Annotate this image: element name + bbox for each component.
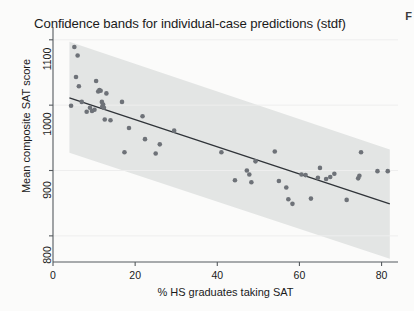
scatter-point <box>72 45 77 50</box>
scatter-point <box>157 142 162 147</box>
scatter-point <box>253 159 258 164</box>
x-tick-label: 0 <box>38 269 68 281</box>
y-tick-label: 1000 <box>41 104 53 144</box>
scatter-point <box>247 172 252 177</box>
scatter-point <box>69 104 74 109</box>
scatter-point <box>328 175 333 180</box>
scatter-point <box>344 198 349 203</box>
scatter-point <box>79 100 84 105</box>
scatter-point <box>249 180 254 185</box>
scatter-point <box>316 175 321 180</box>
scatter-point <box>153 151 158 156</box>
y-tick-label: 1100 <box>41 39 53 79</box>
scatter-point <box>143 137 148 142</box>
scatter-point <box>172 128 177 133</box>
scatter-point <box>74 75 79 80</box>
x-tick-label: 80 <box>367 269 397 281</box>
chart-canvas <box>0 0 414 311</box>
x-tick-label: 60 <box>284 269 314 281</box>
scatter-point <box>233 178 238 183</box>
scatter-point <box>303 173 308 178</box>
scatter-point <box>277 179 282 184</box>
y-tick-label: 900 <box>41 170 53 210</box>
scatter-point <box>357 173 362 178</box>
scatter-point <box>94 79 99 84</box>
scatter-point <box>290 202 295 207</box>
x-tick-label: 20 <box>120 269 150 281</box>
x-axis-title: % HS graduates taking SAT <box>53 286 398 298</box>
scatter-point <box>140 114 145 119</box>
scatter-point <box>84 109 89 114</box>
scatter-point <box>375 169 380 174</box>
figure-container: Confidence bands for individual-case pre… <box>0 0 414 311</box>
y-axis-title: Mean composite SAT score <box>20 26 32 226</box>
scatter-point <box>120 100 125 105</box>
scatter-point <box>104 91 109 96</box>
scatter-point <box>359 150 364 155</box>
scatter-point <box>299 172 304 177</box>
scatter-point <box>309 196 314 201</box>
scatter-point <box>272 149 277 154</box>
scatter-point <box>98 88 103 93</box>
scatter-point <box>77 84 82 89</box>
scatter-point <box>102 117 107 122</box>
scatter-point <box>318 166 323 171</box>
scatter-point <box>127 126 132 131</box>
scatter-point <box>75 53 80 58</box>
scatter-point <box>245 168 250 173</box>
scatter-point <box>219 150 224 155</box>
scatter-point <box>385 169 390 174</box>
scatter-point <box>286 197 291 202</box>
scatter-point <box>92 107 97 112</box>
scatter-point <box>122 150 127 155</box>
scatter-point <box>108 118 113 123</box>
scatter-point <box>324 177 329 182</box>
scatter-point <box>284 185 289 190</box>
scatter-point <box>102 105 107 110</box>
x-tick-label: 40 <box>202 269 232 281</box>
scatter-point <box>332 171 337 176</box>
